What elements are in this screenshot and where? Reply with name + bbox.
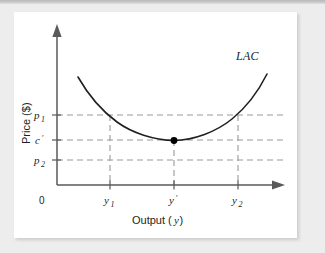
y-axis-title: Price ($) (20, 102, 32, 144)
y-axis-arrow-icon (52, 24, 61, 37)
x-axis-title-text: Output ( (132, 214, 172, 226)
x-tick-label-y1-sub: 1 (111, 200, 115, 209)
lac-cost-curve-chart: LAC p 1 c ′ p 2 0 y 1 y ′ (14, 12, 297, 238)
x-tick-label-y2-sub: 2 (239, 200, 243, 209)
figure-panel: LAC p 1 c ′ p 2 0 y 1 y ′ (14, 12, 297, 238)
x-tick-label-yprime-sub: ′ (176, 194, 178, 203)
y-tick-label-p1-base: p (33, 109, 40, 121)
x-tick-label-y1-base: y (103, 194, 109, 206)
x-tick-label-y2-base: y (231, 194, 237, 206)
y-tick-label-p2-sub: 2 (41, 160, 45, 169)
x-tick-label-origin: 0 (39, 195, 45, 206)
screenshot-root: LAC p 1 c ′ p 2 0 y 1 y ′ (0, 0, 325, 253)
y-tick-label-p2-base: p (33, 154, 40, 166)
x-axis-title: Output ( y ) (132, 214, 183, 226)
y-tick-label-cprime-base: c (35, 134, 40, 146)
x-tick-label-y2: y 2 (231, 194, 243, 209)
x-axis-title-close: ) (180, 214, 184, 226)
y-tick-label-p1: p 1 (33, 109, 45, 124)
x-tick-label-yprime: y ′ (168, 194, 178, 206)
lac-curve-label: LAC (235, 49, 260, 63)
lac-minimum-point-marker (171, 137, 178, 144)
y-tick-label-p1-sub: 1 (41, 115, 45, 124)
lac-curve-path (78, 74, 267, 141)
x-tick-label-yprime-base: y (168, 194, 174, 206)
x-tick-label-y1: y 1 (103, 194, 115, 209)
x-axis-title-variable: y (173, 214, 179, 226)
y-tick-label-cprime-sub: ′ (42, 134, 44, 143)
y-tick-label-p2: p 2 (33, 154, 45, 169)
y-tick-label-cprime: c ′ (35, 134, 44, 146)
x-axis-arrow-icon (272, 180, 285, 189)
